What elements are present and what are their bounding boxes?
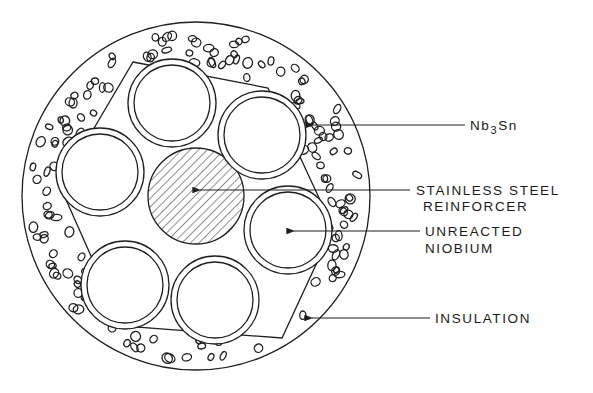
label-insulation: INSULATION — [435, 311, 531, 326]
niobium-tube — [218, 91, 306, 179]
niobium-tube — [244, 186, 332, 274]
label-niobium-line1: UNREACTED — [425, 224, 523, 239]
conductor-cross-section-diagram: Nb3Sn STAINLESS STEEL REINFORCER UNREACT… — [0, 0, 593, 393]
labels: Nb3Sn STAINLESS STEEL REINFORCER UNREACT… — [416, 118, 560, 326]
niobium-tube — [56, 128, 144, 216]
niobium-tube — [171, 256, 259, 344]
label-reinforcer-line2: REINFORCER — [423, 199, 528, 214]
niobium-tube — [128, 59, 216, 147]
label-niobium-line2: NIOBIUM — [425, 241, 494, 256]
niobium-tube — [81, 241, 169, 329]
label-nb3sn: Nb3Sn — [470, 118, 518, 136]
label-reinforcer-line1: STAINLESS STEEL — [416, 183, 560, 198]
